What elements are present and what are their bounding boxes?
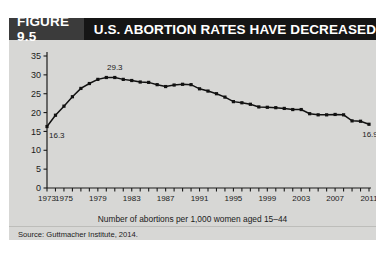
data-point (359, 120, 362, 123)
data-point (223, 96, 226, 99)
x-tick-label: 2003 (292, 194, 310, 203)
y-tick-label: 10 (31, 145, 41, 155)
chart-plot-area: 0510152025303519731975197919831987199119… (9, 40, 376, 190)
data-point (62, 105, 65, 108)
data-point (334, 113, 337, 116)
data-point (283, 107, 286, 110)
data-point (122, 78, 125, 81)
x-tick-label: 1973 (38, 194, 56, 203)
data-point (367, 123, 370, 126)
data-point (325, 113, 328, 116)
x-tick-label: 1991 (191, 194, 209, 203)
y-tick-label: 30 (31, 70, 41, 80)
data-point (88, 82, 91, 85)
x-tick-label: 2011 (360, 194, 376, 203)
x-tick-label: 1995 (225, 194, 243, 203)
x-axis-caption: Number of abortions per 1,000 women aged… (9, 214, 376, 224)
data-annotation: 16.9 (362, 130, 376, 139)
data-point (139, 80, 142, 83)
source-note: Source: Guttmacher Institute, 2014. (18, 230, 138, 239)
y-tick-label: 20 (31, 108, 41, 118)
y-tick-label: 25 (31, 89, 41, 99)
data-point (181, 83, 184, 86)
data-point (215, 92, 218, 95)
data-point (317, 113, 320, 116)
figure-title-bar: FIGURE 9.5 U.S. ABORTION RATES HAVE DECR… (9, 18, 376, 40)
y-tick-label: 15 (31, 127, 41, 137)
data-point (240, 101, 243, 104)
x-tick-label: 1979 (89, 194, 107, 203)
data-point (147, 81, 150, 84)
data-point (105, 76, 108, 79)
data-point (189, 83, 192, 86)
figure-number-label: FIGURE 9.5 (9, 18, 84, 40)
data-point (350, 119, 353, 122)
data-point (71, 95, 74, 98)
data-point (206, 89, 209, 92)
data-point (54, 114, 57, 117)
data-point (96, 78, 99, 81)
data-point (198, 87, 201, 90)
data-point (164, 85, 167, 88)
line-chart: 0510152025303519731975197919831987199119… (9, 40, 376, 212)
figure-card: FIGURE 9.5 U.S. ABORTION RATES HAVE DECR… (9, 18, 376, 240)
y-tick-label: 0 (36, 183, 41, 193)
data-line (47, 78, 369, 127)
data-point (45, 125, 48, 128)
data-point (130, 79, 133, 82)
data-annotation: 16.3 (49, 131, 65, 140)
data-point (249, 103, 252, 106)
data-point (257, 105, 260, 108)
x-tick-label: 1987 (157, 194, 175, 203)
data-point (173, 83, 176, 86)
data-point (308, 112, 311, 115)
data-annotation: 29.3 (107, 63, 123, 72)
x-tick-label: 1975 (55, 194, 73, 203)
figure-title: U.S. ABORTION RATES HAVE DECREASED (84, 18, 376, 40)
x-tick-label: 1999 (258, 194, 276, 203)
data-point (79, 87, 82, 90)
data-point (274, 106, 277, 109)
x-tick-label: 1983 (123, 194, 141, 203)
data-point (113, 76, 116, 79)
data-point (300, 108, 303, 111)
data-point (266, 106, 269, 109)
data-point (232, 100, 235, 103)
divider (9, 226, 376, 227)
data-point (156, 83, 159, 86)
x-tick-label: 2007 (326, 194, 344, 203)
data-point (342, 113, 345, 116)
y-tick-label: 35 (31, 51, 41, 61)
y-tick-label: 5 (36, 164, 41, 174)
data-point (291, 108, 294, 111)
